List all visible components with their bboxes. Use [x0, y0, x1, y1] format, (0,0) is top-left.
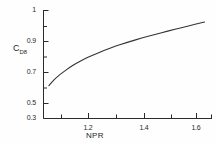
- y-tick-label-0.3: 0.3: [18, 114, 36, 121]
- x-minor-ticks: [62, 115, 212, 119]
- data-curve: [49, 22, 205, 86]
- chart-figure: 1 0.9 0.7 0.5 0.3 1.2 1.4 1.6 NPR CD8: [0, 0, 217, 143]
- x-tick-label-1.6: 1.6: [185, 124, 207, 131]
- x-major-ticks: [89, 113, 197, 119]
- x-tick-label-1.4: 1.4: [133, 124, 155, 131]
- x-axis-title: NPR: [86, 132, 104, 140]
- y-tick-label-0.5: 0.5: [18, 99, 36, 106]
- x-tick-label-1.2: 1.2: [77, 124, 99, 131]
- y-tick-label-0.9: 0.9: [18, 37, 36, 44]
- y-minor-ticks: [44, 27, 48, 89]
- y-tick-label-1: 1: [22, 6, 36, 13]
- y-tick-label-0.7: 0.7: [18, 68, 36, 75]
- y-axis-title-subscript: D8: [20, 49, 27, 55]
- y-axis-title: CD8: [13, 44, 27, 55]
